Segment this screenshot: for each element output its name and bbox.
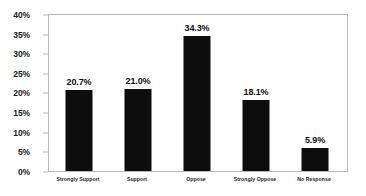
bar-group: 20.7%	[49, 13, 109, 171]
bar[interactable]	[66, 90, 93, 171]
bar-value-label: 18.1%	[243, 87, 268, 97]
x-axis-label: Strongly Oppose	[234, 176, 277, 182]
y-tick-label: 35%	[13, 30, 30, 40]
y-tick-label: 15%	[13, 108, 30, 118]
y-tick-label: 20%	[13, 88, 30, 98]
bar-group: 5.9%	[285, 13, 345, 171]
bar-group: 34.3%	[167, 13, 227, 171]
y-tick-label: 5%	[18, 147, 30, 157]
y-tick-label: 0%	[18, 167, 30, 177]
bar-group: 21.0%	[108, 13, 168, 171]
x-axis-label: No Response	[297, 176, 331, 182]
bar-chart: 40% 35% 30% 25% 20% 15% 10% 5% 0% 20.7% …	[0, 0, 366, 196]
bar[interactable]	[302, 148, 329, 171]
bar-value-label: 5.9%	[305, 135, 325, 145]
x-axis-label: Support	[127, 176, 147, 182]
y-tick-label: 10%	[13, 128, 30, 138]
bar-group: 18.1%	[226, 13, 286, 171]
bar-value-label: 34.3%	[184, 23, 209, 33]
y-tick-label: 40%	[13, 10, 30, 20]
bar-value-label: 21.0%	[125, 76, 150, 86]
x-axis-label: Strongly Support	[56, 176, 99, 182]
x-axis-label: Oppose	[186, 176, 206, 182]
bar[interactable]	[125, 89, 152, 171]
bar[interactable]	[243, 100, 270, 171]
y-axis: 40% 35% 30% 25% 20% 15% 10% 5% 0%	[0, 0, 48, 196]
y-tick-label: 30%	[13, 49, 30, 59]
plot-area: 20.7% 21.0% 34.3% 18.1% 5.9%	[48, 14, 348, 172]
bar-value-label: 20.7%	[66, 77, 91, 87]
bar[interactable]	[184, 36, 211, 171]
y-tick-label: 25%	[13, 69, 30, 79]
